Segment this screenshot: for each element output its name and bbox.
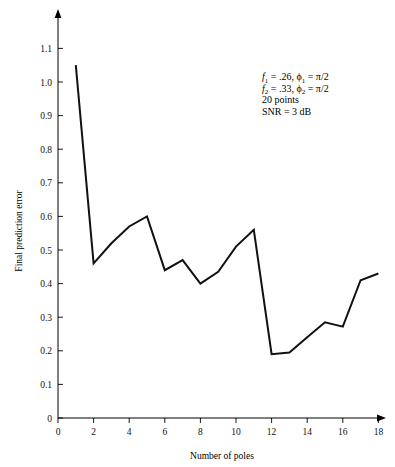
- y-tick-label: 0.4: [40, 279, 52, 289]
- annotation-phi2-value: = π/2: [305, 83, 328, 94]
- chart-background: [0, 0, 395, 467]
- y-tick-label: 0.8: [40, 145, 52, 155]
- x-tick-label: 12: [267, 427, 277, 437]
- y-tick-label: 1.1: [40, 44, 52, 54]
- annotation-f1-value: = .26,: [268, 71, 296, 82]
- y-tick-label: 0.9: [40, 111, 52, 121]
- y-tick-label: 0.3: [40, 313, 52, 323]
- x-tick-label: 4: [127, 427, 132, 437]
- y-tick-label: 0.1: [40, 380, 52, 390]
- annotation-points: 20 points: [262, 94, 299, 105]
- y-tick-label: 0.7: [40, 178, 52, 188]
- x-tick-label: 6: [162, 427, 167, 437]
- y-tick-label: 0.2: [40, 346, 52, 356]
- final-prediction-error-chart: 0 0.1 0.2 0.3 0.4 0.5 0.6 0.7 0.8 0.9 1.…: [0, 0, 395, 467]
- x-tick-label: 18: [374, 427, 384, 437]
- annotation-snr: SNR = 3 dB: [262, 106, 312, 117]
- y-tick-label: 0: [47, 414, 52, 424]
- y-tick-label: 0.5: [40, 246, 52, 256]
- x-tick-label: 8: [198, 427, 203, 437]
- x-tick-label: 16: [338, 427, 348, 437]
- annotation-phi1-value: = π/2: [305, 71, 328, 82]
- x-axis-title: Number of poles: [190, 451, 254, 461]
- x-tick-label: 14: [302, 427, 312, 437]
- x-tick-label: 2: [91, 427, 96, 437]
- chart-figure: 0 0.1 0.2 0.3 0.4 0.5 0.6 0.7 0.8 0.9 1.…: [0, 0, 395, 467]
- y-tick-label: 1.0: [40, 78, 52, 88]
- y-tick-label: 0.6: [40, 212, 52, 222]
- x-tick-label: 10: [231, 427, 241, 437]
- y-axis-title: Final prediction error: [14, 190, 24, 272]
- annotation-f2-value: = .33,: [268, 83, 296, 94]
- x-tick-label: 0: [56, 427, 61, 437]
